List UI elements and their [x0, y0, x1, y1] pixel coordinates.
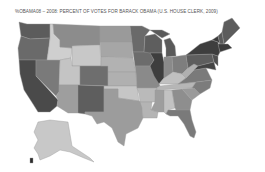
state-nm [78, 85, 104, 114]
us-choropleth-map [0, 0, 265, 172]
state-nd [100, 26, 132, 42]
state-hi [30, 158, 33, 163]
state-wi [144, 34, 162, 53]
state-az [56, 85, 78, 113]
state-me [222, 18, 240, 44]
state-ny [186, 40, 220, 56]
state-or [18, 36, 50, 60]
state-mi [164, 38, 176, 57]
state-sd [100, 42, 133, 58]
state-wy [72, 45, 101, 66]
state-mt [53, 24, 100, 48]
state-ks [108, 72, 137, 86]
state-wa [19, 22, 50, 39]
state-co [80, 66, 108, 86]
state-ar [137, 88, 157, 102]
state-ma [218, 44, 232, 52]
state-ak [34, 120, 94, 162]
state-fl [166, 110, 196, 138]
